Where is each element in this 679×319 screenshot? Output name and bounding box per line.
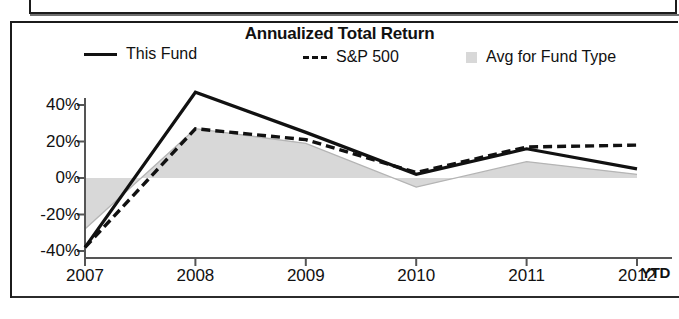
x-axis-label-2011: 2011 — [508, 266, 545, 286]
x-axis-label-2008: 2008 — [176, 266, 214, 286]
x-axis-label-2010: 2010 — [397, 266, 435, 286]
ytd-suffix-label: YTD — [641, 264, 670, 281]
x-axis-tick-labels: 200720082009201020112012 — [0, 0, 679, 319]
x-axis-label-2007: 2007 — [66, 266, 104, 286]
x-axis-label-2009: 2009 — [287, 266, 325, 286]
